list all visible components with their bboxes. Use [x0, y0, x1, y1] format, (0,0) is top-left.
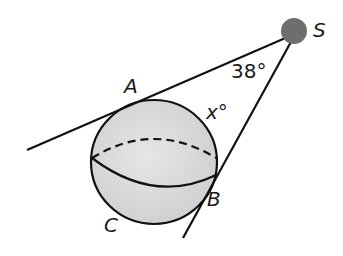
point-s	[281, 18, 307, 44]
label-c: C	[104, 213, 118, 237]
label-b: B	[207, 187, 221, 211]
label-arc-x: x°	[205, 100, 228, 124]
label-a: A	[122, 74, 138, 98]
diagram-canvas: S A 38° x° B C	[0, 0, 343, 256]
label-angle-38: 38°	[231, 59, 266, 83]
sphere	[91, 100, 217, 224]
label-s: S	[313, 18, 326, 42]
